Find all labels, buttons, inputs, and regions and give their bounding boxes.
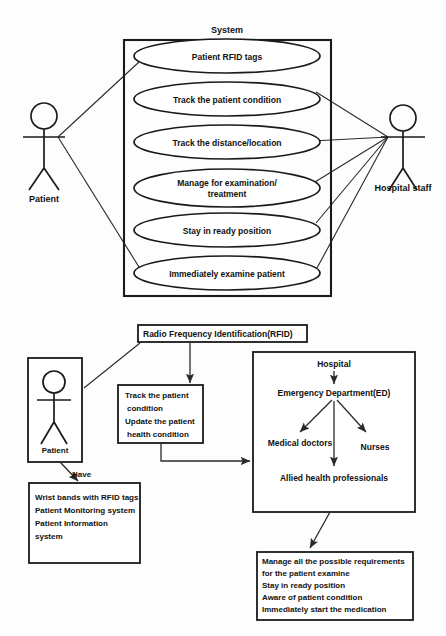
patient-actor-box-label: Patient [42,446,69,455]
use-case-ellipse-manage-examination[interactable] [134,169,320,207]
track-box-line-4: health condition [127,430,189,439]
patient-assets-line-3: Patient Information [35,519,108,528]
hospital-staff-nurses: Nurses [361,442,390,452]
hospital-staff-medical-doctors: Medical doctors [268,438,333,448]
actor-patient[interactable]: Patient [23,103,65,204]
diagram-canvas: System Patient RFID tags Track the patie… [0,0,446,636]
arrow-hospital-to-requirements [310,512,330,548]
link-staff-to-track-condition [316,92,388,137]
patient-assets-line-1: Wrist bands with RFID tags [35,493,139,502]
actor-patient-head [31,103,57,129]
rfid-box-label: Radio Frequency Identification(RFID) [143,329,293,339]
patient-assets-line-4: system [35,532,63,541]
actor-hospital-staff[interactable]: Hospital staff [374,105,432,193]
requirements-line-1: Manage all the possible requirements [262,557,405,566]
track-box-line-1: Track the patient [125,391,189,400]
requirements-line-3: Stay in ready position [262,581,345,590]
actor-patient-leg-left [29,168,44,190]
link-staff-to-track-distance [312,137,388,141]
use-case-label-manage-examination-line2: treatment [208,189,247,199]
use-case-label-track-distance-location: Track the distance/location [172,138,281,148]
uml-diagram-svg: System Patient RFID tags Track the patie… [0,0,446,636]
actor-hospital-staff-head [390,105,416,131]
hospital-staff-allied-health: Allied health professionals [280,473,388,483]
requirements-line-5: Immediately start the medication [262,605,387,614]
link-patient-to-immediately-examine [58,137,139,267]
use-case-label-immediately-examine-patient: Immediately examine patient [169,269,285,279]
use-case-label-stay-ready-position: Stay in ready position [183,226,271,236]
arrow-track-to-hospital [161,443,250,461]
link-staff-to-manage-examination [315,137,388,182]
actor-patient-label: Patient [29,194,59,204]
requirements-line-4: Aware of patient condition [262,593,362,602]
use-case-label-track-patient-condition: Track the patient condition [173,95,281,105]
track-box-line-2: condition [127,404,163,413]
patient-assets-line-2: Patient Monitoring system [35,506,135,515]
track-box-line-3: Update the patient [125,417,195,426]
hospital-root-label: Hospital [317,359,351,369]
requirements-line-2: for the patient examine [262,569,350,578]
use-case-label-manage-examination: Manage for examination/ [177,178,277,188]
system-boundary-label: System [211,25,243,35]
link-staff-to-immediately-examine [317,137,388,268]
have-label: Have [72,470,92,479]
actor-hospital-staff-label: Hospital staff [374,183,432,193]
link-rfid-to-patient [84,343,140,388]
hospital-department-label: Emergency Department(ED) [278,388,391,398]
actor-patient-leg-right [44,168,59,190]
link-patient-to-patient-rfid-tags [58,62,139,137]
link-staff-to-stay-ready [316,137,388,223]
use-case-label-patient-rfid-tags: Patient RFID tags [192,52,263,62]
